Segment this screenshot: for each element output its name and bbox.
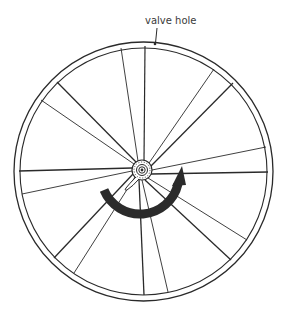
valve-hole-leader-line: [156, 28, 158, 43]
spoke: [41, 100, 134, 164]
spoke: [54, 174, 133, 258]
spoke: [139, 180, 144, 295]
spoke: [151, 172, 268, 174]
axle: [141, 169, 144, 172]
quick-release-lever: [125, 177, 139, 190]
rotation-arrow-shaft: [104, 184, 178, 214]
spoke: [152, 147, 266, 170]
valve-hole-label: valve hole: [145, 15, 196, 26]
spoke: [19, 168, 132, 171]
spoke: [151, 83, 233, 166]
spoke: [57, 82, 136, 162]
rotation-arrow-head: [172, 166, 186, 186]
spoke: [149, 69, 214, 163]
spoke: [121, 48, 138, 161]
spoke: [22, 171, 132, 194]
spoke: [144, 46, 145, 160]
wheel-diagram: valve hole: [0, 0, 283, 311]
valve-hole: [154, 43, 157, 46]
spoke: [142, 180, 168, 292]
valve-hole-callout: valve hole: [145, 15, 196, 45]
